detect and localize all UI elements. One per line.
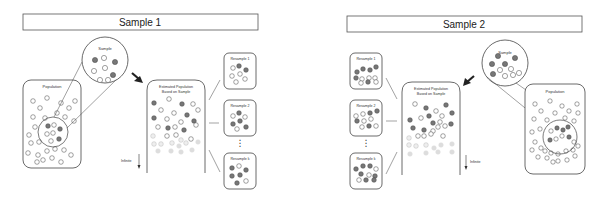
filled-dot xyxy=(361,164,366,169)
open-dot xyxy=(576,144,580,148)
estimated-label-line2: Based on Sample xyxy=(417,92,445,96)
filled-dot xyxy=(444,103,449,108)
open-dot xyxy=(419,116,424,121)
open-dot xyxy=(196,108,201,113)
open-dot xyxy=(31,115,36,120)
open-dot xyxy=(45,96,50,101)
resample-label: Resample 2 xyxy=(230,104,249,108)
open-dot xyxy=(436,125,441,130)
open-dot xyxy=(572,119,576,123)
open-dot xyxy=(545,118,549,122)
open-dot xyxy=(29,141,34,146)
filled-dot xyxy=(495,53,500,58)
open-dot xyxy=(51,131,56,136)
filled-dot xyxy=(237,111,242,116)
open-dot xyxy=(159,108,164,113)
filled-dot xyxy=(180,102,185,107)
open-dot xyxy=(576,111,580,115)
open-dot xyxy=(231,66,236,71)
filled-dot xyxy=(238,119,243,124)
open-dot xyxy=(543,149,547,153)
open-dot xyxy=(573,154,577,158)
open-dot xyxy=(165,134,170,139)
open-dot xyxy=(516,70,521,75)
open-dot xyxy=(545,156,549,160)
bootstrap-diagram: Sample 1 Population Sample Estimated Pop… xyxy=(0,0,604,200)
filled-dot xyxy=(367,124,372,129)
open-dot xyxy=(560,104,564,108)
open-dot xyxy=(440,114,445,119)
open-dot xyxy=(35,160,40,165)
open-dot xyxy=(63,115,68,120)
infinite-label: Infinite xyxy=(470,160,481,164)
filled-dot xyxy=(237,64,242,69)
open-dot xyxy=(91,68,96,73)
filled-dot xyxy=(355,70,360,75)
open-dot xyxy=(502,73,507,78)
connector-line xyxy=(209,80,220,100)
open-dot xyxy=(172,111,177,116)
open-dot xyxy=(67,106,72,111)
faded-dot xyxy=(407,136,412,141)
connector-line xyxy=(386,152,397,174)
faded-dot xyxy=(424,151,429,156)
faded-dot xyxy=(152,142,157,147)
open-dot xyxy=(41,158,46,163)
open-dot xyxy=(549,129,553,133)
filled-dot xyxy=(112,59,117,64)
open-dot xyxy=(244,179,249,184)
estimated-label-line1: Estimated Population xyxy=(159,85,193,89)
faded-dot xyxy=(439,143,444,148)
open-dot xyxy=(105,77,110,82)
open-dot xyxy=(538,127,542,131)
open-dot xyxy=(52,123,57,128)
filled-dot xyxy=(46,124,51,129)
open-dot xyxy=(231,114,236,119)
open-dot xyxy=(374,124,379,129)
filled-dot xyxy=(372,178,377,183)
open-dot xyxy=(362,119,367,124)
filled-dot xyxy=(231,122,236,127)
filled-dot xyxy=(422,128,427,133)
filled-dot xyxy=(424,106,429,111)
open-dot xyxy=(416,134,421,139)
open-dot xyxy=(73,99,78,104)
filled-dot xyxy=(57,137,62,142)
filled-dot xyxy=(354,76,359,81)
filled-dot xyxy=(374,65,379,70)
faded-dot xyxy=(151,134,156,139)
filled-dot xyxy=(502,61,507,66)
filled-dot xyxy=(449,122,454,127)
open-dot xyxy=(548,99,552,103)
open-dot xyxy=(191,102,196,107)
open-dot xyxy=(27,133,32,138)
filled-dot xyxy=(58,127,63,132)
filled-dot xyxy=(566,125,570,129)
panel-title: Sample 2 xyxy=(443,19,486,30)
open-dot xyxy=(553,111,557,115)
faded-dot xyxy=(432,146,437,151)
sample-label: Sample xyxy=(98,46,112,51)
open-dot xyxy=(369,117,374,122)
open-dot xyxy=(49,139,54,144)
filled-dot xyxy=(92,57,97,62)
filled-dot xyxy=(489,61,494,66)
open-dot xyxy=(45,132,50,137)
faded-dot xyxy=(159,142,164,147)
arrow-icon xyxy=(132,73,143,83)
open-dot xyxy=(497,67,502,72)
open-dot xyxy=(53,147,58,152)
open-dot xyxy=(102,65,107,70)
population-label: Population xyxy=(43,84,62,89)
faded-dot xyxy=(179,150,184,155)
filled-dot xyxy=(366,80,371,85)
sample-label: Sample xyxy=(498,50,512,55)
estimated-label-line1: Estimated Population xyxy=(414,87,448,91)
open-dot xyxy=(434,109,439,114)
filled-dot xyxy=(490,71,495,76)
filled-dot xyxy=(368,111,373,116)
open-dot xyxy=(167,97,172,102)
open-dot xyxy=(174,133,179,138)
open-dot xyxy=(45,149,50,154)
filled-dot xyxy=(185,113,190,118)
